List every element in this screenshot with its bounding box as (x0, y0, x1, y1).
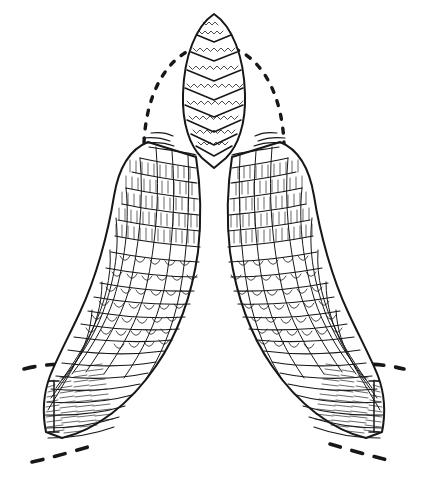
line-drawing-canvas (0, 0, 428, 478)
figure-root (0, 0, 428, 478)
